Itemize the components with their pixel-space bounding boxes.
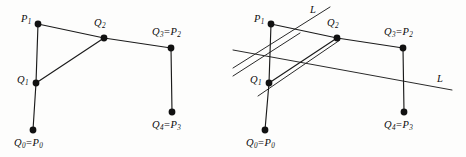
vertex-Q2 (334, 35, 341, 42)
label-Q1-right: Q1 (250, 75, 261, 86)
edge-Q2-Q1 (269, 38, 337, 83)
vertex-P1 (268, 21, 275, 28)
vertex-P1 (35, 21, 42, 28)
left-panel-group (30, 21, 176, 134)
edge-P1-Q1 (36, 24, 38, 83)
label-line-L-long: L (437, 74, 443, 85)
label-Q0-P0-right: Q0=P0 (246, 138, 275, 149)
label-Q2-left: Q2 (94, 18, 105, 29)
label-P1-right: P1 (254, 14, 264, 25)
edge-Q2-Q3 (337, 38, 403, 48)
label-Q1-left: Q1 (17, 75, 28, 86)
label-Q4-P3-left: Q4=P3 (152, 120, 181, 131)
label-Q3-P2-left: Q3=P2 (152, 27, 181, 38)
diagram-canvas (0, 0, 466, 157)
right-panel-group (233, 7, 452, 133)
vertex-Q0 (30, 127, 37, 134)
edge-Q2-Q1 (36, 38, 104, 83)
label-line-L-upper: L (310, 5, 316, 16)
edge-Q1-Q0 (33, 83, 36, 130)
vertex-Q1 (33, 80, 40, 87)
vertex-Q3 (400, 45, 407, 52)
vertex-Q0 (262, 127, 269, 134)
edge-Q3-Q4 (171, 48, 172, 112)
label-Q2-right: Q2 (327, 18, 338, 29)
vertex-Q2 (101, 35, 108, 42)
label-Q0-P0-left: Q0=P0 (14, 138, 43, 149)
vertex-Q4 (401, 109, 408, 116)
vertex-Q3 (168, 45, 175, 52)
vertex-Q1 (266, 80, 273, 87)
geometry-figure: P1 Q2 Q3=P2 Q1 Q4=P3 Q0=P0 P1 Q2 Q3=P2 Q… (0, 0, 466, 157)
edge-Q2-Q3 (104, 38, 171, 48)
vertex-Q4 (169, 109, 176, 116)
edge-Q3-Q4 (403, 48, 404, 112)
edge-P1-Q1 (269, 24, 271, 83)
label-Q3-P2-right: Q3=P2 (384, 27, 413, 38)
label-P1-left: P1 (21, 14, 31, 25)
label-Q4-P3-right: Q4=P3 (384, 120, 413, 131)
